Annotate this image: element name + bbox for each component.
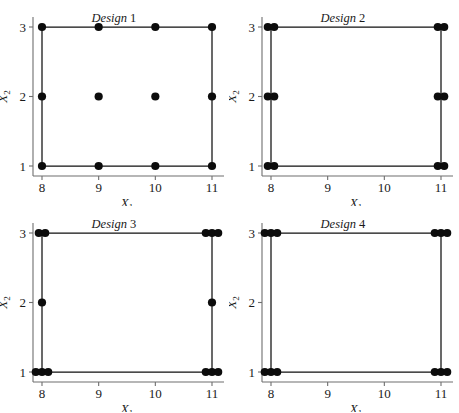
axis-spines	[262, 223, 453, 382]
design-point	[440, 162, 448, 170]
panel-design1: Design1123891011X1X2	[0, 0, 229, 206]
design-point	[38, 162, 46, 170]
design-point	[270, 92, 278, 100]
design-point	[151, 162, 159, 170]
design-region-outline	[271, 27, 441, 166]
svg-text:2: 2	[359, 11, 365, 25]
y-axis-title: X2	[229, 90, 241, 103]
y-axis-ticks: 123	[20, 20, 34, 174]
design-comparison-figure: Design1123891011X1X2Design2123891011X1X2…	[0, 0, 459, 413]
design-point	[95, 92, 103, 100]
y-tick-label: 3	[20, 20, 27, 35]
x-tick-label: 9	[324, 386, 331, 401]
design-point	[214, 368, 222, 376]
design-point	[151, 23, 159, 31]
y-tick-label: 3	[249, 20, 256, 35]
svg-text:4: 4	[359, 217, 366, 231]
design-point	[440, 92, 448, 100]
axis-spines	[33, 223, 224, 382]
y-tick-label: 3	[249, 226, 256, 241]
panel-title-design3: Design3	[91, 217, 137, 231]
y-axis-title: X2	[0, 90, 12, 103]
x-tick-label: 11	[435, 386, 448, 401]
design-point	[38, 23, 46, 31]
x-tick-label: 9	[95, 386, 102, 401]
x-tick-label: 9	[324, 180, 331, 195]
svg-text:Design: Design	[91, 217, 127, 231]
plot-area-design2: Design2123891011X1X2	[229, 0, 458, 206]
x-tick-label: 11	[435, 180, 448, 195]
design-points	[261, 229, 452, 376]
x-tick-label: 10	[378, 180, 391, 195]
y-tick-label: 2	[249, 89, 256, 104]
svg-text:Design: Design	[320, 11, 356, 25]
design-point	[44, 368, 52, 376]
design-point	[214, 229, 222, 237]
x-axis-title: X1	[120, 401, 133, 412]
design-point	[270, 23, 278, 31]
design-point	[95, 162, 103, 170]
panel-title-design2: Design2	[320, 11, 366, 25]
x-tick-label: 10	[149, 180, 162, 195]
y-tick-label: 3	[20, 226, 27, 241]
design-point	[440, 23, 448, 31]
panel-title-design1: Design1	[91, 11, 137, 25]
x-tick-label: 10	[149, 386, 162, 401]
x-axis-title: X1	[349, 401, 362, 412]
x-tick-label: 8	[39, 180, 46, 195]
y-tick-label: 1	[20, 159, 27, 174]
x-tick-label: 8	[268, 180, 275, 195]
panel-design4: Design4123891011X1X2	[229, 206, 458, 412]
x-tick-label: 9	[95, 180, 102, 195]
y-tick-label: 1	[249, 365, 256, 380]
x-axis-ticks: 891011	[268, 176, 448, 195]
panel-design3: Design3123891011X1X2	[0, 206, 229, 412]
panel-design2: Design2123891011X1X2	[229, 0, 458, 206]
axis-spines	[33, 17, 224, 176]
design-points	[32, 229, 223, 376]
y-axis-title: X2	[229, 296, 241, 309]
design-points	[38, 23, 216, 170]
design-region-outline	[42, 233, 212, 372]
x-tick-label: 8	[39, 386, 46, 401]
svg-text:Design: Design	[91, 11, 127, 25]
axis-spines	[262, 17, 453, 176]
design-points	[264, 23, 449, 170]
design-point	[270, 162, 278, 170]
y-axis-title: X2	[0, 296, 12, 309]
y-tick-label: 2	[20, 89, 27, 104]
y-tick-label: 1	[249, 159, 256, 174]
design-point	[38, 92, 46, 100]
x-axis-ticks: 891011	[268, 382, 448, 401]
x-axis-ticks: 891011	[39, 382, 219, 401]
svg-text:1: 1	[130, 11, 136, 25]
design-point	[208, 23, 216, 31]
design-point	[208, 162, 216, 170]
x-tick-label: 8	[268, 386, 275, 401]
x-axis-title: X1	[120, 195, 133, 206]
x-axis-title: X1	[349, 195, 362, 206]
y-axis-ticks: 123	[249, 20, 263, 174]
x-axis-ticks: 891011	[39, 176, 219, 195]
plot-area-design1: Design1123891011X1X2	[0, 0, 229, 206]
plot-area-design3: Design3123891011X1X2	[0, 206, 229, 412]
design-point	[151, 92, 159, 100]
design-point	[41, 229, 49, 237]
design-region-outline	[271, 233, 441, 372]
design-region-outline	[42, 27, 212, 166]
y-tick-label: 1	[20, 365, 27, 380]
panel-title-design4: Design4	[320, 217, 366, 231]
x-tick-label: 10	[378, 386, 391, 401]
y-axis-ticks: 123	[20, 226, 34, 380]
design-point	[38, 298, 46, 306]
design-point	[273, 368, 281, 376]
design-point	[95, 23, 103, 31]
design-point	[443, 229, 451, 237]
x-tick-label: 11	[206, 386, 219, 401]
svg-text:Design: Design	[320, 217, 356, 231]
y-tick-label: 2	[20, 295, 27, 310]
y-axis-ticks: 123	[249, 226, 263, 380]
design-point	[208, 298, 216, 306]
plot-area-design4: Design4123891011X1X2	[229, 206, 458, 412]
design-point	[443, 368, 451, 376]
